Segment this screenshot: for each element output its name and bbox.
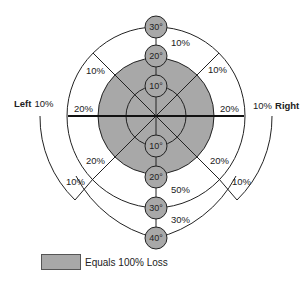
svg-text:40°: 40° — [149, 233, 163, 243]
degree-marker-up-20: 20° — [145, 45, 167, 67]
pct-lower-right-outer: 10% — [232, 176, 252, 187]
pct-lower-bottom: 30% — [171, 214, 191, 225]
right-outer-arc — [237, 116, 272, 200]
degree-marker-down-20: 20° — [145, 166, 167, 188]
svg-text:30°: 30° — [149, 203, 163, 213]
pct-upper-right: 10% — [208, 64, 228, 75]
pct-lower-right-inner: 20% — [210, 155, 230, 166]
legend-label: Equals 100% Loss — [85, 257, 168, 268]
pct-horiz-left: 20% — [74, 103, 94, 114]
svg-text:20°: 20° — [149, 172, 163, 182]
pct-upper-left: 10% — [86, 65, 106, 76]
svg-text:20°: 20° — [149, 51, 163, 61]
right-label: 10%Right — [253, 100, 300, 111]
svg-text:10°: 10° — [149, 81, 163, 91]
svg-text:10°: 10° — [149, 141, 163, 151]
visual-field-diagram: 30° 20° 10° 10° 20° 30° 40° 10% 10% 10% … — [0, 0, 301, 286]
left-outer-arc — [40, 116, 75, 200]
pct-upper-top: 10% — [171, 37, 191, 48]
degree-marker-up-10: 10° — [145, 75, 167, 97]
pct-lower-left-inner: 20% — [86, 155, 106, 166]
svg-text:30°: 30° — [149, 22, 163, 32]
degree-marker-down-40: 40° — [145, 227, 167, 249]
legend-swatch — [41, 254, 81, 270]
degree-marker-up-30: 30° — [145, 16, 167, 38]
degree-marker-down-10: 10° — [145, 135, 167, 157]
pct-horiz-right: 20% — [220, 103, 240, 114]
degree-marker-down-30: 30° — [145, 197, 167, 219]
pct-lower-mid: 50% — [171, 184, 191, 195]
pct-lower-left-outer: 10% — [66, 176, 86, 187]
left-label: Left10% — [14, 98, 54, 109]
legend: Equals 100% Loss — [41, 254, 168, 270]
